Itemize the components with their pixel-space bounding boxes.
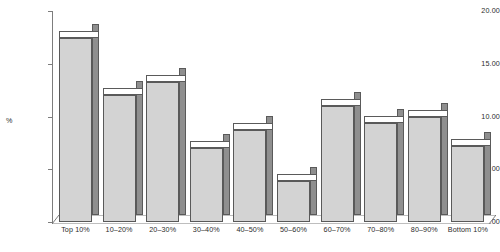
y-axis-tick-label: 20.00 <box>454 7 500 14</box>
bar-column <box>103 88 143 222</box>
bar-top-face <box>364 116 404 123</box>
bar-column <box>321 99 361 222</box>
bar-column <box>408 110 448 223</box>
y-axis-tick-mark <box>48 64 53 65</box>
bar-column <box>364 116 404 222</box>
bar-side-face <box>397 109 404 215</box>
y-axis-tick-label: 10.00 <box>454 113 500 120</box>
bar-column <box>451 139 491 222</box>
bar-top-face <box>190 141 230 148</box>
y-axis-tick-mark <box>48 169 53 170</box>
bar-front-face <box>321 106 354 222</box>
bar-top-face <box>59 31 99 38</box>
bar-side-face <box>266 116 273 215</box>
bar-side-face <box>92 24 99 215</box>
bar-side-face <box>136 81 143 215</box>
bar-column <box>146 75 186 222</box>
bar-chart-plot-area: % 0.005.0010.0015.0020.00 Top 10%10–20%2… <box>0 0 500 252</box>
bar-top-face <box>321 99 361 106</box>
bar-top-face <box>103 88 143 95</box>
bar-front-face <box>364 123 397 222</box>
bar-top-face <box>146 75 186 82</box>
bar-front-face <box>146 82 179 222</box>
bar-column <box>233 123 273 222</box>
bar-top-face <box>408 110 448 117</box>
bar-side-face <box>354 92 361 215</box>
bar-front-face <box>233 130 266 222</box>
y-axis-tick-mark <box>48 11 53 12</box>
bar-top-face <box>277 174 317 181</box>
bar-top-face <box>233 123 273 130</box>
x-axis-tick-label: Bottom 10% <box>439 226 496 233</box>
y-axis-tick-mark <box>48 117 53 118</box>
bar-front-face <box>408 117 441 223</box>
bar-front-face <box>59 38 92 222</box>
y-axis-tick-label: 15.00 <box>454 60 500 67</box>
bar-column <box>277 174 317 222</box>
bar-column <box>190 141 230 222</box>
bar-side-face <box>179 68 186 215</box>
bar-front-face <box>451 146 484 222</box>
bar-front-face <box>190 148 223 222</box>
bar-front-face <box>103 95 136 222</box>
chart-figure: % 0.005.0010.0015.0020.00 Top 10%10–20%2… <box>0 0 500 252</box>
bar-side-face <box>441 103 448 216</box>
y-axis-title: % <box>6 117 12 124</box>
bar-top-face <box>451 139 491 146</box>
bar-column <box>59 31 99 222</box>
bar-front-face <box>277 181 310 222</box>
